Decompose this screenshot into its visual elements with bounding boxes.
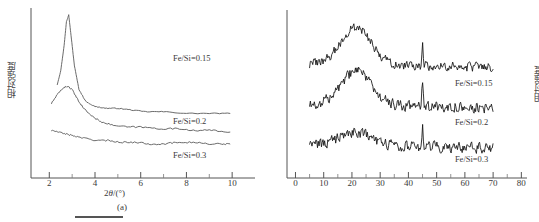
page-rule-artifact — [75, 216, 123, 218]
panel-b-xtick-40: 40 — [404, 178, 413, 188]
panel-b-xtick-80: 80 — [517, 178, 526, 188]
panel-a-caption: (a) — [117, 202, 127, 212]
panel-a-xtick-8: 8 — [184, 178, 189, 188]
panel-b-xtick-50: 50 — [432, 178, 441, 188]
panel-b-xtick-0: 0 — [293, 178, 298, 188]
panel-b-curve-label-2: Fe/Si=0.3 — [455, 154, 488, 164]
panel-a-xtick-10: 10 — [228, 178, 237, 188]
panel-a-y-axis-label: 相对强度 — [4, 62, 17, 98]
panel-a: 相对强度 2θ/(°) (a) — [0, 0, 270, 222]
panel-b-xtick-60: 60 — [460, 178, 469, 188]
panel-b-y-axis-label: 相对强度 — [531, 66, 539, 102]
panel-a-xtick-4: 4 — [93, 178, 98, 188]
xrd-figure: 相对强度 2θ/(°) (a) 相对强度 2θ/(°) (b) 246810Fe… — [0, 0, 539, 222]
panel-b-xtick-10: 10 — [319, 178, 328, 188]
panel-a-curve-label-2: Fe/Si=0.3 — [173, 150, 206, 160]
panel-a-curve-label-0: Fe/Si=0.15 — [173, 53, 211, 63]
panel-b-curve-label-0: Fe/Si=0.15 — [455, 78, 493, 88]
panel-a-xtick-2: 2 — [47, 178, 52, 188]
panel-a-xtick-6: 6 — [138, 178, 143, 188]
panel-a-x-axis-label: 2θ/(°) — [104, 188, 125, 198]
panel-b-xtick-30: 30 — [376, 178, 385, 188]
panel-b-curve-label-1: Fe/Si=0.2 — [455, 117, 488, 127]
panel-a-curve-label-1: Fe/Si=0.2 — [173, 116, 206, 126]
panel-a-plot — [0, 0, 270, 222]
panel-b-xtick-70: 70 — [489, 178, 498, 188]
panel-b-xtick-20: 20 — [347, 178, 356, 188]
panel-b-curves — [310, 24, 493, 154]
panel-b-plot — [265, 0, 539, 222]
panel-b: 相对强度 2θ/(°) (b) — [265, 0, 539, 222]
